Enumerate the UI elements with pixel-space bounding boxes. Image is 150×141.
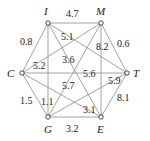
node-label-G: G	[44, 123, 52, 135]
node-label-C: C	[7, 67, 15, 79]
edge-weight-C-E: 3.1	[83, 104, 96, 115]
edge-weight-C-T: 5.6	[83, 68, 96, 79]
edge-weight-G-E: 3.2	[66, 123, 79, 134]
edge-weight-G-M: 5.7	[62, 80, 75, 91]
node-label-I: I	[43, 5, 49, 17]
node-I	[46, 21, 50, 25]
edge-weight-C-G: 1.5	[20, 95, 33, 106]
node-T	[125, 71, 129, 75]
edge-weight-I-T: 5.1	[61, 31, 74, 42]
edge-I-T	[48, 23, 127, 73]
node-label-M: M	[95, 5, 106, 17]
edge-weight-I-C: 0.8	[20, 36, 33, 47]
node-E	[99, 115, 103, 119]
edge-weight-M-E: 8.2	[96, 41, 109, 52]
edge-weight-I-E: 3.6	[62, 54, 75, 65]
node-M	[99, 21, 103, 25]
edge-weight-I-G: 1.1	[41, 96, 54, 107]
edge-weight-C-M: 5.2	[33, 60, 46, 71]
weighted-graph-diagram: 4.70.80.61.53.28.11.18.25.65.25.13.65.75…	[0, 0, 150, 141]
edge-weight-I-M: 4.7	[66, 8, 79, 19]
node-label-E: E	[96, 123, 104, 135]
node-G	[46, 115, 50, 119]
node-label-T: T	[133, 67, 140, 79]
edge-weight-T-E: 8.1	[117, 92, 130, 103]
edge-weight-G-T: 5.9	[108, 75, 121, 86]
node-C	[20, 71, 24, 75]
edge-weight-M-T: 0.6	[117, 38, 130, 49]
